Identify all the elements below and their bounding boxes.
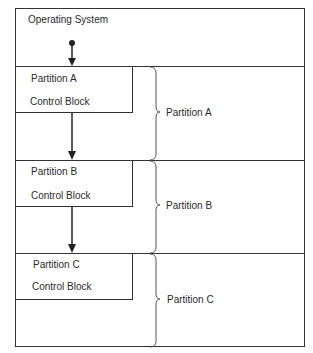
diagram-connectors: [0, 0, 313, 353]
os-pointer-arrow: [68, 40, 76, 66]
partition-b-brace-icon: [150, 161, 160, 253]
partition-c-brace-icon: [150, 254, 160, 347]
chain-arrow-b-to-c: [68, 207, 76, 253]
partition-a-brace-icon: [150, 67, 160, 160]
chain-arrow-a-to-b: [68, 113, 76, 160]
